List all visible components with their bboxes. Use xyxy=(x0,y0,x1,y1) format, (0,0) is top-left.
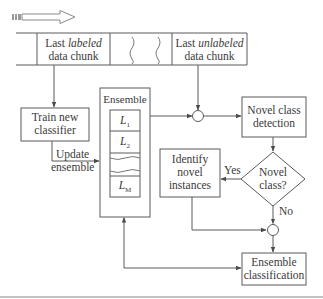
update-ensemble-label: Update ensemble xyxy=(54,148,94,174)
model-l2: L2 xyxy=(110,135,140,153)
labeled-line2: data chunk xyxy=(48,50,98,62)
detection-label: Novel class detection xyxy=(242,104,306,130)
decision-line1: Novel xyxy=(259,166,287,178)
ensemble-title: Ensemble xyxy=(100,93,150,106)
unlabeled-chunk-label: Last unlabeled data chunk xyxy=(172,37,247,63)
identify-line3: instances xyxy=(169,179,211,191)
merge-junction-2 xyxy=(268,225,279,236)
labeled-emph: labeled xyxy=(68,37,102,49)
model-l2-sub: 2 xyxy=(126,142,130,150)
decision-label: Novel class? xyxy=(243,166,303,192)
classification-line2: classification xyxy=(244,269,305,281)
update-line2: ensemble xyxy=(51,161,94,173)
train-line1: Train new xyxy=(32,111,79,123)
no-label: No xyxy=(279,205,293,218)
classification-label: Ensemble classification xyxy=(242,256,306,282)
classification-line1: Ensemble xyxy=(251,256,296,268)
model-l1: L1 xyxy=(110,114,140,132)
decision-line2: class? xyxy=(259,179,286,191)
stream-direction-arrow-icon xyxy=(12,11,75,24)
detection-line2: detection xyxy=(253,117,295,129)
unlabeled-emph: unlabeled xyxy=(198,37,243,49)
model-l1-sub: 1 xyxy=(126,121,130,129)
labeled-chunk-label: Last labeled data chunk xyxy=(37,37,110,63)
train-line2: classifier xyxy=(34,124,76,136)
model-lm: LM xyxy=(110,179,140,197)
train-label: Train new classifier xyxy=(21,111,89,137)
labeled-prefix: Last xyxy=(45,37,68,49)
identify-line2: novel xyxy=(177,166,203,178)
model-lm-sub: M xyxy=(125,186,131,194)
unlabeled-prefix: Last xyxy=(175,37,198,49)
detection-line1: Novel class xyxy=(247,104,300,116)
unlabeled-line2: data chunk xyxy=(184,50,234,62)
identify-label: Identify novel instances xyxy=(160,153,220,192)
identify-line1: Identify xyxy=(172,153,208,165)
merge-junction-1 xyxy=(193,111,204,122)
update-line1: Update xyxy=(56,148,89,160)
yes-label: Yes xyxy=(224,164,241,177)
